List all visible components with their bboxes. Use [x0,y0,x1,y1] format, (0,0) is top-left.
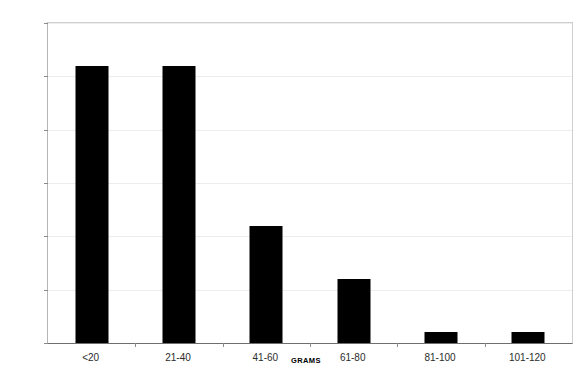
plot-area: 051015202530 [47,22,573,344]
x-tick-label: 101-120 [484,352,571,363]
bar-slot [485,23,572,343]
bar-slot [48,23,135,343]
bar-slot [397,23,484,343]
bar-chart: NO OF AXES 051015202530 <2021-4041-6061-… [0,0,584,388]
x-axis-title: GRAMS [291,356,321,365]
bar-slot [310,23,397,343]
bar-slot [223,23,310,343]
bar [250,226,283,343]
bar [424,332,457,343]
x-tick-label: <20 [47,352,134,363]
bar-slot [135,23,222,343]
x-tick-label: 61-80 [309,352,396,363]
bar [75,66,108,343]
x-tick-mark [397,343,398,347]
x-tick-mark [135,343,136,347]
bar [162,66,195,343]
bars-layer [48,23,572,343]
bar [512,332,545,343]
x-tick-mark [310,343,311,347]
x-tick-mark [223,343,224,347]
bar [337,279,370,343]
x-tick-label: 81-100 [396,352,483,363]
x-tick-label: 21-40 [134,352,221,363]
x-tick-mark [485,343,486,347]
y-tick-mark [44,343,48,344]
